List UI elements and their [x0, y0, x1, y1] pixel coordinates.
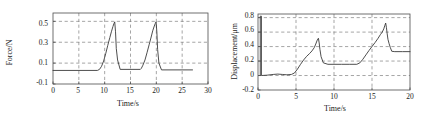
- chart-panel-force: Force/N 0.5 0.3 0.1 -0.1 0 5 10 15 20 25…: [0, 0, 223, 120]
- plot-area-force: [0, 0, 223, 120]
- two-panel-figure: Force/N 0.5 0.3 0.1 -0.1 0 5 10 15 20 25…: [0, 0, 447, 120]
- plot-area-displacement: [223, 0, 447, 120]
- chart-panel-displacement: Displacement/μm 0.8 0.6 0.4 0.2 0 -0.2 0…: [223, 0, 447, 120]
